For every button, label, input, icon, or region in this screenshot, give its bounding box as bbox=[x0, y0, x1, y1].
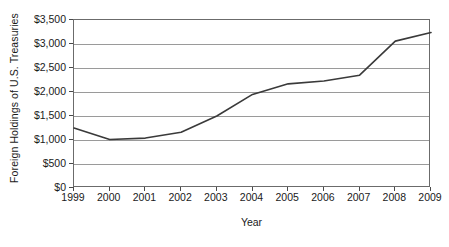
x-axis-tick-label: 2000 bbox=[89, 192, 129, 203]
x-axis-tick-label: 2007 bbox=[339, 192, 379, 203]
x-axis-tick-label: 1999 bbox=[53, 192, 93, 203]
x-axis-tick-label: 2006 bbox=[303, 192, 343, 203]
x-axis-tick-label: 2001 bbox=[124, 192, 164, 203]
x-axis-title: Year bbox=[73, 216, 430, 228]
x-axis-tick-label: 2009 bbox=[410, 192, 449, 203]
series-layer bbox=[74, 20, 431, 188]
x-axis-tick-label: 2004 bbox=[232, 192, 272, 203]
y-axis-tick-label: $1,500 bbox=[6, 110, 66, 121]
x-axis-tick-label: 2002 bbox=[160, 192, 200, 203]
x-axis-tick-label: 2005 bbox=[267, 192, 307, 203]
y-axis-tick-label: $0 bbox=[6, 182, 66, 193]
y-axis-tick-label: $3,000 bbox=[6, 38, 66, 49]
line-chart-figure: Foreign Holdings of U.S. Treasuries $0$5… bbox=[0, 0, 449, 247]
y-axis-tick-label: $500 bbox=[6, 158, 66, 169]
y-axis-tick-label: $1,000 bbox=[6, 134, 66, 145]
x-axis-tick-label: 2008 bbox=[374, 192, 414, 203]
y-axis-tick-label: $2,000 bbox=[6, 86, 66, 97]
series-line-foreign-holdings bbox=[74, 32, 431, 139]
y-axis-tick-label: $3,500 bbox=[6, 14, 66, 25]
y-axis-tick-label: $2,500 bbox=[6, 62, 66, 73]
plot-area bbox=[73, 19, 430, 187]
x-axis-tick-label: 2003 bbox=[196, 192, 236, 203]
